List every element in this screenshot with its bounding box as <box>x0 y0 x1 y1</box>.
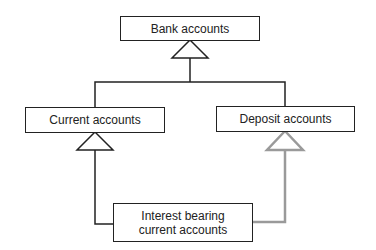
node-bank-accounts: Bank accounts <box>120 16 260 41</box>
node-deposit-accounts: Deposit accounts <box>216 106 355 132</box>
node-interest-bearing-current-accounts: Interest bearing current accounts <box>113 203 253 242</box>
node-label: Deposit accounts <box>239 112 331 126</box>
node-label: Bank accounts <box>151 22 230 36</box>
generalization-arrow-current <box>77 132 113 150</box>
inheritance-bus <box>95 82 285 107</box>
node-label-line1: Interest bearing <box>141 209 224 223</box>
edge-interest-to-current <box>95 150 113 224</box>
edge-interest-to-deposit <box>253 150 285 222</box>
generalization-arrow-deposit <box>267 131 303 150</box>
generalization-arrow-bank <box>172 40 208 58</box>
node-current-accounts: Current accounts <box>25 107 165 133</box>
node-label-line2: current accounts <box>139 223 228 237</box>
node-label: Current accounts <box>49 113 140 127</box>
